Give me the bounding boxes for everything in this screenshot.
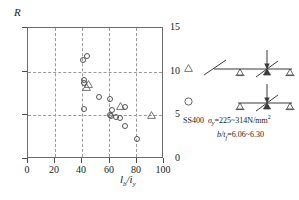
gridline-y-5 [28, 115, 162, 116]
y-axis-label: R [14, 6, 21, 18]
x-tickmark-80 [136, 158, 137, 163]
x-tickmark-100 [163, 158, 164, 163]
gridline-x-20 [55, 28, 56, 157]
data-point-circle [81, 106, 87, 112]
x-tickmark-20 [54, 158, 55, 163]
data-point-circle [96, 94, 102, 100]
data-point-triangle [147, 105, 156, 123]
legend-caption-line-2: b/tf=6.06~6.30 [182, 129, 299, 144]
plot-area [27, 27, 163, 158]
x-tick-label-20: 20 [42, 165, 66, 175]
legend-row-circle [182, 82, 299, 116]
legend: SS400 σy=225~314N/mm2 b/tf=6.06~6.30 [182, 20, 299, 170]
legend-caption-line-1: SS400 σy=225~314N/mm2 [182, 112, 299, 129]
x-tickmark-0 [27, 158, 28, 163]
x-tick-label-0: 0 [15, 165, 39, 175]
data-point-triangle [82, 77, 91, 95]
legend-marker-triangle-icon [184, 58, 193, 76]
beam-diagram-overhang [200, 48, 298, 86]
x-axis-label: lb/iy [120, 173, 136, 188]
scatter-chart: R 15 10 5 0 0 20 40 60 80 100 lb/iy [0, 0, 180, 200]
legend-row-triangle [182, 48, 299, 82]
gridline-x-60 [109, 28, 110, 157]
legend-caption: SS400 σy=225~314N/mm2 b/tf=6.06~6.30 [182, 112, 299, 144]
x-tickmark-60 [109, 158, 110, 163]
data-point-circle [84, 53, 90, 59]
data-point-circle [122, 123, 128, 129]
x-tick-label-60: 60 [97, 165, 121, 175]
legend-marker-circle-icon [184, 92, 193, 110]
x-tickmark-40 [81, 158, 82, 163]
data-point-circle [107, 96, 113, 102]
gridline-y-10 [28, 72, 162, 73]
x-tick-label-100: 100 [151, 165, 175, 175]
figure-root: R 15 10 5 0 0 20 40 60 80 100 lb/iy [0, 0, 299, 200]
data-point-circle [134, 136, 140, 142]
x-tick-label-40: 40 [69, 165, 93, 175]
data-point-circle [117, 115, 123, 121]
data-point-triangle [116, 96, 125, 114]
